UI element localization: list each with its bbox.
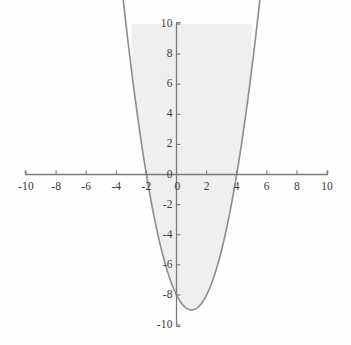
y-axis-tick-label: 8: [167, 48, 173, 60]
y-axis-tick-label: 6: [167, 78, 173, 90]
x-axis-tick-label: 4: [234, 181, 240, 193]
parabola-fill-region: [131, 24, 251, 310]
y-axis-tick-label: -2: [163, 199, 173, 211]
plot-area: [0, 0, 351, 345]
y-axis-tick-label: -10: [157, 319, 173, 331]
y-axis-tick-label: -4: [163, 229, 173, 241]
x-axis-tick-label: 8: [294, 181, 300, 193]
y-axis-tick-label: 4: [167, 109, 173, 121]
axes: [25, 22, 328, 326]
x-axis-tick-label: -8: [51, 181, 61, 193]
y-axis-tick-label: 2: [167, 139, 173, 151]
x-axis-tick-label: -4: [111, 181, 121, 193]
y-axis-tick-label: -6: [163, 259, 173, 271]
parabola-chart: -10-8-6-4-2246810-10-8-6-4-202468100: [0, 0, 351, 345]
x-axis-tick-label: 6: [264, 181, 270, 193]
x-axis-tick-label: -2: [142, 181, 152, 193]
y-axis-tick-label: 10: [161, 18, 173, 30]
x-axis-origin-label: 0: [175, 181, 181, 193]
y-axis-tick-label: -8: [163, 289, 173, 301]
x-axis-tick-label: 10: [321, 181, 333, 193]
x-axis-tick-label: 2: [204, 181, 210, 193]
x-axis-tick-label: -10: [18, 181, 34, 193]
x-axis-tick-label: -6: [81, 181, 91, 193]
y-axis-tick-label: 0: [167, 169, 173, 181]
